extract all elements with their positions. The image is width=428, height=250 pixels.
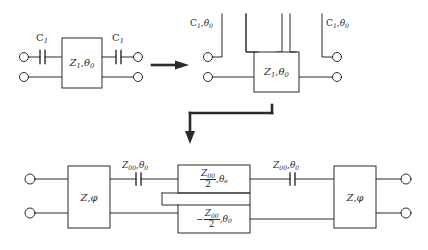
label-s3-box-bottom: −Z002,θ0	[178, 205, 250, 233]
terminal-s1-bot-right	[134, 73, 143, 82]
stub-s2-left-open	[213, 14, 223, 57]
stub-s2-inner-right	[276, 14, 282, 52]
label-s3-box-left: Z,φ	[68, 166, 110, 228]
label-s1-box: Z1,θ0	[62, 38, 102, 88]
label-s3-box-right: Z,φ	[334, 166, 376, 228]
label-s2-stub-right: C1,θ0	[326, 19, 349, 29]
wire-s3-bracket-left-inner	[162, 193, 250, 205]
label-s3-box-top: Z002,θe	[178, 165, 250, 193]
terminal-s1-bot-left	[20, 73, 29, 82]
terminal-s3-top-right	[401, 174, 411, 184]
terminal-s2-bot-right	[333, 73, 342, 82]
stub-s2-inner-right-join	[290, 14, 296, 52]
terminal-s2-bot-left	[204, 73, 213, 82]
terminal-s3-top-left	[25, 174, 35, 184]
transform-arrow-down-shape	[185, 105, 272, 144]
stub-s2-inner-left-join	[246, 14, 258, 52]
figure-canvas: C1 C1 Z1,θ0 C1,θ0 C1,θ0 Z1,θ0 Z,φ Z,φ Z0…	[0, 0, 428, 250]
wire-s3-bracket-left-down	[162, 193, 178, 205]
terminal-s3-bot-left	[25, 208, 35, 218]
label-s2-box: Z1,θ0	[254, 52, 299, 92]
stub-s2-inner-left	[246, 14, 254, 52]
terminal-s1-top-left	[20, 53, 29, 62]
terminal-s3-bot-right	[401, 208, 411, 218]
terminal-s2-top-right	[333, 53, 342, 62]
label-s3-series-left: Z00,θ0	[122, 161, 148, 171]
label-s1-cap-left: C1	[36, 33, 48, 45]
label-s1-cap-right: C1	[112, 33, 124, 45]
terminal-s1-top-right	[134, 53, 143, 62]
terminal-s2-top-left	[204, 53, 213, 62]
label-s3-series-right: Z00,θ0	[273, 161, 299, 171]
label-s2-stub-left: C1,θ0	[190, 19, 213, 29]
transform-arrow-right-shape	[152, 61, 189, 70]
